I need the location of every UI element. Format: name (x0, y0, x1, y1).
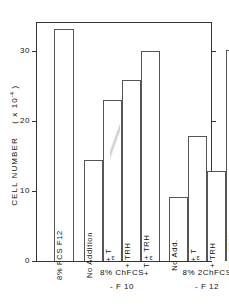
y-axis-title: CELL NUMBER ( x 10-4 ) (9, 65, 20, 225)
bar-2chfcs-t3-trh[interactable]: + T3 + TRH (226, 50, 229, 261)
bar-chfcs-t3-trh[interactable]: + T3 + TRH (141, 51, 160, 261)
y-axis-title-text: CELL NUMBER (10, 137, 19, 206)
bar-chfcs-trh-label: + TRH (123, 242, 132, 267)
y-tick-20 (32, 121, 37, 122)
group-caption-chfcs-line2: - F 10 (82, 282, 162, 291)
y-tick-30 (32, 51, 37, 52)
y-axis-line (36, 22, 37, 262)
bar-chfcs-t3-label: + T3 (104, 248, 113, 261)
bar-2chfcs-trh[interactable]: + TRH (207, 171, 226, 261)
group-caption-2chfcs-line1: 8% 2ChFCS (183, 268, 229, 277)
y-tick-right-30 (211, 51, 216, 52)
bar-2chfcs-t3-label: + T3 (189, 248, 198, 261)
frame-top-line (36, 22, 212, 23)
y-tick-right-20 (211, 121, 216, 122)
bar-chfcs-t3[interactable]: + T3 (103, 100, 122, 261)
bar-2chfcs-noadd[interactable]: No Add. (169, 197, 188, 261)
y-tick-label-20: 20 (8, 116, 30, 125)
bar-2chfcs-trh-label: + TRH (208, 242, 217, 267)
bar-chart-figure: CELL NUMBER ( x 10-4 ) 0102030 8% FCS F1… (0, 0, 229, 308)
group-caption-2chfcs-line2: - F 12 (167, 282, 229, 291)
y-tick-10 (32, 191, 37, 192)
bar-2chfcs-t3[interactable]: + T3 (188, 136, 207, 261)
group-caption-chfcs: 8% ChFCS- F 10 (82, 268, 162, 291)
bar-chfcs-noadd[interactable]: No Addition (84, 160, 103, 261)
bar-chfcs-t3-label-subscript: 3 (111, 255, 114, 261)
y-axis-unit-exponent: -4 (9, 92, 15, 97)
bar-2chfcs-t3-label-subscript: 3 (196, 255, 199, 261)
y-tick-label-0: 0 (8, 256, 30, 265)
plot-area: 0102030 8% FCS F12No Addition+ T3+ TRH+ … (36, 22, 212, 262)
y-tick-label-10: 10 (8, 186, 30, 195)
bar-chfcs-trh[interactable]: + TRH (122, 80, 141, 261)
bar-chfcs-t3-trh-label-subscript: 3 (149, 255, 152, 261)
group-caption-chfcs-line1: 8% ChFCS (100, 268, 144, 277)
bar-fcs-f12-label: 8% FCS F12 (55, 230, 64, 280)
group-caption-2chfcs: 8% 2ChFCS- F 12 (167, 268, 229, 291)
bar-fcs-f12[interactable]: 8% FCS F12 (54, 29, 74, 261)
bar-2chfcs-noadd-label: No Add. (170, 239, 179, 271)
y-axis-unit-suffix: ) (10, 85, 19, 92)
y-tick-0 (32, 261, 37, 262)
y-tick-label-30: 30 (8, 46, 30, 55)
